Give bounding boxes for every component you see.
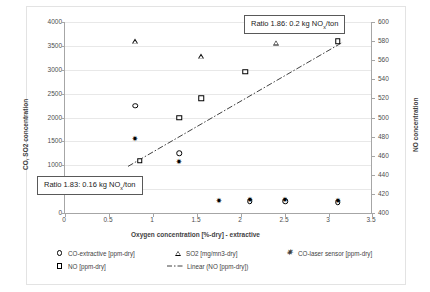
y2-tick-label-500: 500 [378, 114, 412, 121]
x-tick-label-3: 3 [308, 216, 348, 223]
chart-legend: CO-extractive [ppm-dry] SO2 [mg/mn3-dry]… [55, 249, 400, 275]
y2-tick-500 [371, 118, 375, 119]
square-marker-icon [55, 262, 64, 270]
lower-ratio-callout: Ratio 1.83: 0.16 kg NOx/ton [37, 176, 143, 195]
legend-item-co-laser: ✷ CO-laser sensor [ppm-dry] [285, 249, 372, 257]
y-tick-label-0: 0 [28, 209, 62, 216]
y2-tick-520 [371, 98, 375, 99]
legend-label: Linear (NO [ppm-dry]) [187, 263, 248, 270]
y2-tick-label-520: 520 [378, 94, 412, 101]
x-tick-label-1: 1 [132, 216, 172, 223]
legend-label: CO-laser sensor [ppm-dry] [298, 250, 372, 257]
triangle-marker-icon [173, 249, 182, 257]
y2-tick-label-600: 600 [378, 18, 412, 25]
y-tick-label-4000: 4000 [28, 18, 62, 25]
x-axis-line [65, 213, 371, 214]
legend-label: CO-extractive [ppm-dry] [68, 250, 135, 257]
x-tick-label-2: 2 [220, 216, 260, 223]
legend-item-so2: SO2 [mg/mn3-dry] [173, 249, 237, 257]
y-tick-label-1000: 1000 [28, 161, 62, 168]
legend-label: NO [ppm-dry] [68, 263, 106, 270]
y2-tick-label-540: 540 [378, 75, 412, 82]
legend-label: SO2 [mg/mn3-dry] [186, 250, 237, 257]
x-tick-label-2.5: 2.5 [264, 216, 304, 223]
upper-ratio-text-prefix: Ratio 1.86: 0.2 kg NO [251, 19, 323, 28]
y2-tick-540 [371, 79, 375, 80]
y2-tick-420 [371, 194, 375, 195]
x-tick-label-1.5: 1.5 [176, 216, 216, 223]
x-tick-label-0.5: 0.5 [88, 216, 128, 223]
x-tick-label-0: 0 [44, 216, 84, 223]
upper-ratio-callout: Ratio 1.86: 0.2 kg NOx/ton [244, 15, 345, 34]
y2-tick-label-460: 460 [378, 152, 412, 159]
x-axis-title: Oxygen concentration [%-dry] - extractiv… [131, 231, 260, 238]
x-tick-label-3.5: 3.5 [351, 216, 391, 223]
y-axis-right-title: NO concentration [412, 97, 419, 152]
y-tick-label-3000: 3000 [28, 66, 62, 73]
y2-tick-label-440: 440 [378, 171, 412, 178]
y2-tick-label-480: 480 [378, 133, 412, 140]
y-tick-label-3500: 3500 [28, 42, 62, 49]
lower-ratio-text-prefix: Ratio 1.83: 0.16 kg NO [44, 180, 120, 189]
y2-tick-440 [371, 175, 375, 176]
circle-marker-icon [55, 249, 64, 257]
y2-tick-label-420: 420 [378, 190, 412, 197]
y2-tick-label-400: 400 [378, 209, 412, 216]
y2-tick-480 [371, 137, 375, 138]
y-tick-label-2500: 2500 [28, 90, 62, 97]
chart-figure: CO, SO2 concentration 4000 3500 3000 250… [0, 0, 430, 292]
y2-tick-580 [371, 41, 375, 42]
y-axis-left-title: CO, SO2 concentration [22, 99, 29, 170]
legend-item-linear-no: Linear (NO [ppm-dry]) [167, 262, 248, 270]
y2-tick-560 [371, 60, 375, 61]
y2-tick-600 [371, 22, 375, 23]
lower-ratio-text-suffix: /ton [123, 180, 136, 189]
dashdot-line-icon [167, 262, 183, 270]
y2-tick-label-560: 560 [378, 56, 412, 63]
y-tick-label-2000: 2000 [28, 114, 62, 121]
y-tick-label-1500: 1500 [28, 137, 62, 144]
legend-item-no: NO [ppm-dry] [55, 262, 106, 270]
legend-item-co-extractive: CO-extractive [ppm-dry] [55, 249, 135, 257]
x-marker-icon: ✷ [285, 249, 294, 257]
y2-tick-label-580: 580 [378, 37, 412, 44]
y2-tick-460 [371, 156, 375, 157]
upper-ratio-text-suffix: /ton [326, 19, 339, 28]
